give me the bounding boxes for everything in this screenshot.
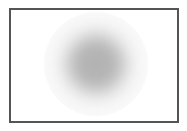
blurred-circle	[68, 36, 124, 92]
image-frame	[9, 8, 179, 123]
